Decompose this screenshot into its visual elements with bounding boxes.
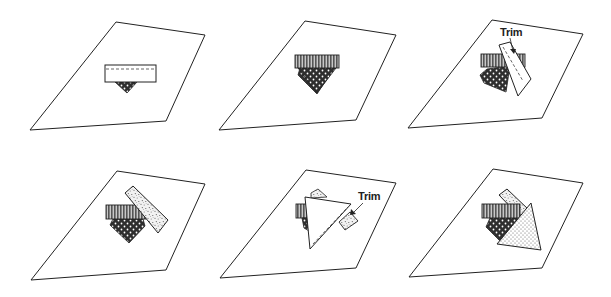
white-fabric-strip bbox=[105, 65, 156, 82]
panel-step-4 bbox=[31, 171, 205, 280]
panel-step-1 bbox=[30, 22, 205, 130]
panel-step-2 bbox=[219, 21, 396, 130]
panel-step-3: Trim bbox=[408, 20, 583, 128]
trim-label: Trim bbox=[358, 190, 381, 202]
striped-fabric-strip bbox=[482, 204, 520, 218]
panel-step-5: Trim bbox=[220, 170, 396, 278]
trim-label: Trim bbox=[500, 26, 523, 38]
quilting-steps-diagram: Trim Trim bbox=[0, 0, 611, 297]
striped-fabric-strip bbox=[295, 55, 339, 68]
panel-step-6 bbox=[409, 169, 583, 277]
